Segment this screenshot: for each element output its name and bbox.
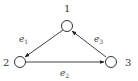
node-3 bbox=[106, 57, 117, 68]
node-1-label: 1 bbox=[64, 3, 70, 14]
graph-diagram: 1 2 3 e1 e2 e3 bbox=[0, 0, 138, 81]
edge-2-label: e2 bbox=[60, 68, 69, 79]
node-2 bbox=[15, 57, 26, 68]
edge-1-to-2 bbox=[25, 30, 63, 57]
edge-1-label: e1 bbox=[19, 34, 28, 45]
node-1 bbox=[62, 21, 73, 32]
edge-3-label: e3 bbox=[94, 34, 103, 45]
node-3-label: 3 bbox=[125, 57, 131, 68]
node-2-label: 2 bbox=[3, 57, 9, 68]
